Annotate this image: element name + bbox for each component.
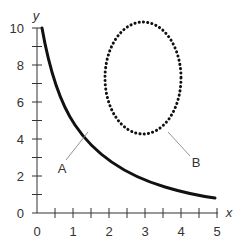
y-tick-label-0: 0: [17, 206, 24, 221]
y-tick-label-2: 2: [17, 169, 24, 184]
curve-a: [42, 28, 215, 198]
x-tick-label-4: 4: [177, 224, 184, 239]
x-tick-label-2: 2: [105, 224, 112, 239]
y-axis-label: y: [32, 8, 41, 23]
x-axis-label: x: [225, 205, 233, 220]
ellipse-b: [105, 22, 181, 134]
annotation-a: A: [58, 161, 67, 176]
x-tick-label-5: 5: [213, 224, 220, 239]
y-tick-label-8: 8: [17, 58, 24, 73]
y-tick-label-4: 4: [17, 132, 24, 147]
leader-line-a: [66, 132, 88, 160]
y-tick-label-10: 10: [10, 21, 24, 36]
x-tick-label-0: 0: [33, 224, 40, 239]
x-tick-label-3: 3: [141, 224, 148, 239]
y-tick-label-6: 6: [17, 95, 24, 110]
leader-line-b: [168, 132, 190, 156]
x-tick-label-1: 1: [69, 224, 76, 239]
annotation-b: B: [192, 155, 201, 170]
chart: 10 8 6 4 2 0 0 1 2 3 4 5 y x A B: [0, 0, 243, 245]
